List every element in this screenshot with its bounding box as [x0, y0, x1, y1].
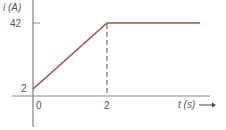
- current-vs-time-chart: i (A) 42 2 0 2 t (s): [0, 0, 226, 130]
- current-curve: [33, 23, 200, 89]
- x-tick-label-0: 0: [36, 100, 42, 111]
- y-axis-label: i (A): [3, 2, 21, 13]
- chart-canvas: i (A) 42 2 0 2 t (s): [0, 0, 226, 130]
- y-tick-label-42: 42: [10, 18, 22, 29]
- y-tick-label-2: 2: [21, 83, 27, 94]
- x-axis-label: t (s): [178, 99, 195, 110]
- x-axis-arrow-icon: [199, 103, 216, 108]
- x-tick-label-2: 2: [104, 100, 110, 111]
